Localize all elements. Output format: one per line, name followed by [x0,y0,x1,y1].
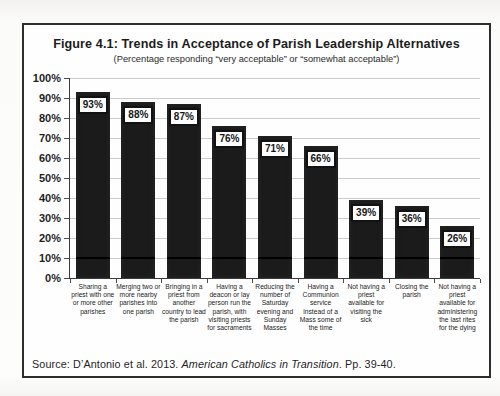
y-axis-label: 70% [39,132,61,144]
bar-scan-line [121,257,155,259]
category-label: Closing the parish [389,283,435,332]
y-axis-label: 100% [33,72,61,84]
y-axis-tick [64,98,69,99]
category-label: Sharing a priest with one or more other … [70,283,116,332]
bar-value-box: 26% [442,230,472,248]
bar: 93% [76,92,110,278]
source-note: Source: D’Antonio et al. 2013. American … [32,358,396,370]
y-axis-tick [64,118,69,119]
y-axis-tick [64,218,69,219]
x-axis-tick [480,279,481,283]
category-label: Having a Communion service instead of a … [298,283,344,332]
y-axis-label: 0% [45,272,61,284]
category-label: Not having a priest available for visiti… [343,283,389,332]
bar: 88% [121,102,155,278]
y-axis-tick [64,258,69,259]
bar: 39% [349,200,383,278]
bar-scan-line [440,257,474,259]
y-axis-label: 40% [39,192,61,204]
y-axis-label: 90% [39,92,61,104]
bar-scan-line [76,257,110,259]
y-axis-tick [64,158,69,159]
y-axis-label: 20% [39,232,61,244]
bar-value-box: 88% [123,106,153,124]
y-axis-tick [64,238,69,239]
y-axis-tick [64,138,69,139]
bar-value-box: 87% [169,108,199,126]
figure-subtitle: (Percentage responding “very acceptable”… [24,54,489,64]
source-prefix: Source: D’Antonio et al. 2013. [32,358,182,370]
category-label: Reducing the number of Saturday evening … [252,283,298,332]
y-axis-tick [64,178,69,179]
plot-area: 0%10%20%30%40%50%60%70%80%90%100%93%88%8… [70,78,480,278]
bar-value-box: 76% [214,130,244,148]
category-label: Merging two or more nearby parishes into… [116,283,162,332]
gridline [70,78,480,79]
y-axis-label: 30% [39,212,61,224]
bar-scan-line [395,257,429,259]
bar-scan-line [258,257,292,259]
scanned-page: Figure 4.1: Trends in Acceptance of Pari… [0,0,500,396]
source-suffix: . Pp. 39-40. [339,358,396,370]
bar-value-box: 66% [306,150,336,168]
bar: 66% [304,146,338,278]
bar-scan-line [212,257,246,259]
category-label: Not having a priest available for admini… [435,283,481,332]
figure-box: Figure 4.1: Trends in Acceptance of Pari… [22,23,491,378]
source-book-title: American Catholics in Transition [182,358,339,370]
bar-value-box: 71% [260,140,290,158]
category-label: Bringing in a priest from another countr… [161,283,207,332]
bar: 76% [212,126,246,278]
bar-scan-line [304,257,338,259]
y-axis-label: 60% [39,152,61,164]
y-axis-label: 10% [39,252,61,264]
bar-value-box: 93% [78,96,108,114]
gridline [70,98,480,99]
x-axis-category-labels: Sharing a priest with one or more other … [70,283,480,332]
bar-value-box: 39% [351,204,381,222]
bar: 26% [440,226,474,278]
figure-title: Figure 4.1: Trends in Acceptance of Pari… [24,37,489,51]
y-axis-label: 50% [39,172,61,184]
bar: 71% [258,136,292,278]
y-axis-tick [64,78,69,79]
y-axis-tick [64,278,69,279]
y-axis-label: 80% [39,112,61,124]
bar-value-box: 36% [397,210,427,228]
x-axis-line [69,278,480,279]
bar-scan-line [167,257,201,259]
y-axis-tick [64,198,69,199]
bar-scan-line [349,257,383,259]
category-label: Having a deacon or lay person run the pa… [207,283,253,332]
bar: 87% [167,104,201,278]
bar: 36% [395,206,429,278]
